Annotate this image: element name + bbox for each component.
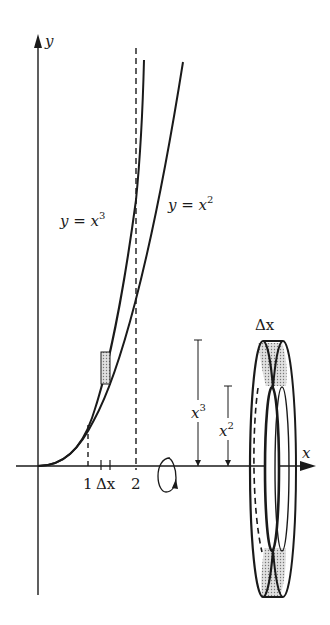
label-y-equals-x-cubed: y = x3 xyxy=(59,210,105,230)
dimension-inner-radius: x2 xyxy=(219,386,234,466)
tick-label-2: 2 xyxy=(131,475,141,493)
label-x-cubed: x3 xyxy=(191,402,206,422)
y-axis-label: y xyxy=(44,32,54,50)
washer-width-label: Δx xyxy=(255,316,275,334)
curve-y-equals-x-cubed xyxy=(38,60,144,466)
y-axis-arrow-icon xyxy=(34,34,42,48)
rotation-arrow-icon xyxy=(158,458,178,492)
curve-y-equals-x-squared xyxy=(38,62,183,466)
label-x-squared: x2 xyxy=(219,420,234,440)
tick-label-1: 1 xyxy=(83,475,93,493)
strip-rectangle xyxy=(101,352,110,384)
x-axis-arrow-icon xyxy=(300,461,316,471)
x-axis-label: x xyxy=(302,444,311,462)
dimension-outer-radius: x3 xyxy=(191,340,206,466)
washer-solid: Δx xyxy=(250,316,296,597)
tick-label-delta-x: Δx xyxy=(96,475,116,493)
y-axis: y xyxy=(34,32,54,595)
washer-diagram: y x y = x3 y = x2 1 Δx 2 x3 xyxy=(0,0,330,625)
label-y-equals-x-squared: y = x2 xyxy=(167,194,213,214)
